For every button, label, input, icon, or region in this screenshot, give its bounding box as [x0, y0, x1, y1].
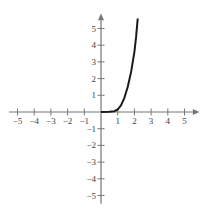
y-tick-label: −5 [86, 191, 96, 201]
y-tick-label: 2 [92, 74, 97, 84]
y-tick-label: −2 [86, 140, 96, 150]
function-graph: −5−4−3−2−11234554321−1−2−3−4−5 [0, 0, 205, 213]
x-tick-label: −3 [46, 116, 56, 126]
axes [9, 13, 199, 203]
x-tick-label: 2 [132, 116, 137, 126]
x-tick-label: −4 [29, 116, 39, 126]
x-tick-label: 1 [115, 116, 120, 126]
y-tick-label: 1 [92, 90, 97, 100]
y-tick-label: −3 [86, 157, 96, 167]
y-tick-label: 4 [92, 40, 97, 50]
x-tick-label: 3 [149, 116, 154, 126]
curve-line [101, 19, 138, 113]
y-tick-label: −4 [86, 174, 96, 184]
y-tick-label: 5 [92, 24, 97, 34]
x-tick-label: 5 [182, 116, 187, 126]
y-tick-label: −1 [86, 124, 96, 134]
x-tick-label: 4 [166, 116, 171, 126]
x-tick-label: −5 [13, 116, 23, 126]
x-axis-arrow-icon [193, 109, 200, 115]
y-tick-label: 3 [92, 57, 97, 67]
x-tick-label: −2 [63, 116, 73, 126]
y-axis-arrow-icon [98, 13, 104, 20]
